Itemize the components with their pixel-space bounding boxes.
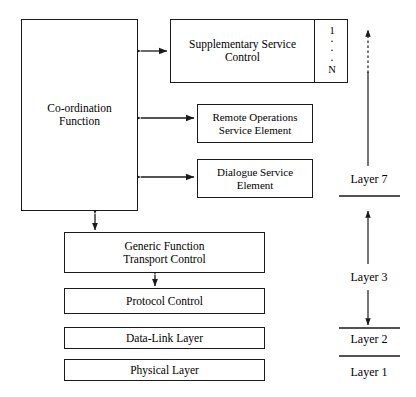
- block-coordination-function: Co-ordination Function: [21, 19, 138, 211]
- block-dialogue-service-element: Dialogue Service Element: [197, 159, 313, 198]
- layer-1-label: Layer 1: [329, 365, 409, 380]
- block-generic-function-transport-control: Generic Function Transport Control: [64, 232, 265, 273]
- physical-layer-label: Physical Layer: [127, 364, 202, 377]
- block-data-link-layer: Data-Link Layer: [64, 327, 265, 349]
- supplementary-service-instances: 1 · · · N: [315, 20, 349, 82]
- rose-label: Remote Operations Service Element: [209, 111, 300, 136]
- coordination-function-label: Co-ordination Function: [44, 102, 115, 128]
- supplementary-service-control-label: Supplementary Service Control: [171, 20, 314, 82]
- block-remote-operations-service-element: Remote Operations Service Element: [197, 104, 313, 143]
- instance-last: N: [328, 65, 336, 76]
- layer-3-label: Layer 3: [329, 270, 409, 285]
- protocol-architecture-diagram: Co-ordination Function Supplementary Ser…: [0, 0, 416, 397]
- dse-label: Dialogue Service Element: [214, 166, 296, 191]
- protocol-control-label: Protocol Control: [123, 295, 206, 308]
- data-link-layer-label: Data-Link Layer: [123, 332, 206, 345]
- block-physical-layer: Physical Layer: [64, 359, 265, 381]
- block-supplementary-service-control: Supplementary Service Control 1 · · · N: [170, 19, 348, 83]
- layer-2-label: Layer 2: [329, 332, 409, 347]
- block-protocol-control: Protocol Control: [64, 288, 265, 314]
- gft-label: Generic Function Transport Control: [120, 240, 208, 266]
- layer-7-label: Layer 7: [329, 172, 409, 187]
